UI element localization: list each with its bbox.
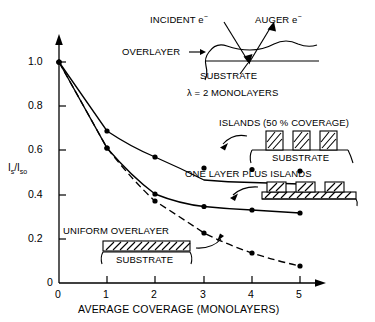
islands-title-label: ISLANDS (50 % COVERAGE) [219, 117, 349, 128]
x-ticks [107, 276, 300, 283]
one-layer-title-label: ONE LAYER PLUS ISLANDS [185, 168, 312, 179]
islands-substrate-right-curl [348, 150, 353, 163]
x-tick-label-1: 1 [103, 288, 109, 300]
islands-leader-arrowhead [220, 143, 228, 151]
series-one-layer-line [59, 62, 300, 213]
y-tick-label-0.6: 0.6 [28, 143, 43, 155]
inset-one-layer-drawing [230, 182, 357, 206]
y-tick-label-0: 0 [47, 276, 53, 288]
incident-electron-superscript: − [204, 13, 208, 20]
incident-arrow-line [224, 22, 248, 61]
islands-leader [223, 135, 247, 144]
x-tick-label-0: 0 [55, 288, 61, 300]
point-one-layer-4 [249, 207, 254, 212]
point-islands-1 [104, 128, 109, 133]
lambda-label: λ = 2 MONOLAYERS [187, 87, 278, 98]
x-tick-label-2: 2 [151, 288, 157, 300]
x-tick-label-5: 5 [296, 288, 302, 300]
uniform-substrate-label: SUBSTRATE [116, 254, 173, 265]
auger-electron-label: AUGER e− [255, 13, 302, 25]
point-one-layer-2 [152, 191, 157, 196]
auger-arrow-line [249, 25, 272, 63]
overlayer-label-arrowhead [200, 49, 206, 55]
y-tick-label-0.8: 0.8 [28, 99, 43, 111]
x-tick-label-3: 3 [200, 288, 206, 300]
auger-electron-superscript: − [297, 13, 301, 20]
incident-electron-text: INCIDENT e [150, 14, 204, 25]
y-tick-label-0.2: 0.2 [28, 232, 43, 244]
point-one-layer-3 [201, 204, 206, 209]
uniform-leader [196, 239, 221, 248]
overlayer-wavy-line [209, 41, 317, 52]
figure-root: 1.0 0.8 0.6 0.4 0.2 0 Is/Iso 0 1 2 3 4 5… [0, 0, 375, 322]
point-uniform-1 [104, 145, 109, 150]
x-axis-label: AVERAGE COVERAGE (MONOLAYERS) [78, 303, 279, 315]
islands-substrate-left-curl [250, 150, 252, 163]
x-tick-label-4: 4 [248, 288, 254, 300]
point-uniform-5 [297, 263, 302, 268]
point-uniform-2 [152, 198, 157, 203]
point-uniform-3 [201, 230, 206, 235]
y-ticks [59, 62, 66, 239]
uniform-title-label: UNIFORM OVERLAYER [63, 225, 169, 236]
point-one-layer-5 [297, 210, 302, 215]
y-axis-arrowhead [55, 34, 63, 45]
auger-electron-text: AUGER e [255, 14, 297, 25]
substrate-label-top: SUBSTRATE [200, 70, 257, 81]
one-layer-leader [233, 187, 258, 195]
overlayer-label: OVERLAYER [122, 46, 180, 57]
y-axis-label-den-sub: so [20, 168, 27, 175]
uniform-substrate-left-curl [101, 252, 103, 264]
uniform-substrate-right-curl [190, 252, 192, 264]
point-uniform-0 [56, 59, 61, 64]
islands-substrate-label: SUBSTRATE [272, 152, 329, 163]
incident-electron-label: INCIDENT e− [150, 13, 208, 25]
point-islands-2 [152, 154, 157, 159]
one-layer-substrate-right-curl [356, 199, 357, 206]
y-tick-label-1.0: 1.0 [28, 55, 43, 67]
x-axis-arrowhead [315, 279, 326, 287]
y-tick-label-0.4: 0.4 [28, 188, 43, 200]
y-axis-label: Is/Iso [8, 162, 27, 175]
point-uniform-4 [249, 250, 254, 255]
